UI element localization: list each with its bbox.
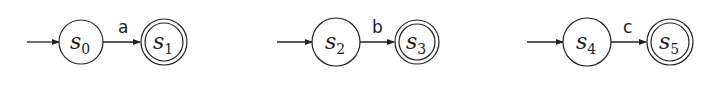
transition-label-c: c [623,17,632,37]
automata-diagram: s0 a s1 s2 b s3 s4 c s5 [0,0,706,87]
automaton-1: s0 a s1 [27,17,187,65]
transition-label-a: a [118,17,128,37]
automaton-2: s2 b s3 [277,17,439,66]
automaton-3: s4 c s5 [527,17,693,66]
transition-label-b: b [372,17,383,37]
